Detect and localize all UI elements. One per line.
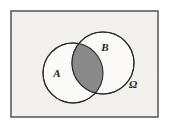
venn-diagram-canvas: A B Ω [0,0,170,128]
universe-label: Ω [129,78,138,90]
venn-diagram-figure: A B Ω [0,0,170,128]
set-a-label: A [52,67,60,79]
set-b-label: B [100,41,108,53]
